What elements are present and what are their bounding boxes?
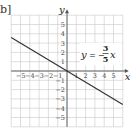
svg-text:5: 5 — [103, 54, 109, 64]
svg-text:1: 1 — [61, 58, 65, 66]
svg-text:5: 5 — [111, 72, 115, 80]
svg-text:=: = — [89, 51, 96, 60]
svg-text:y: y — [58, 4, 65, 15]
svg-text:2: 2 — [84, 72, 88, 80]
svg-text:−1: −1 — [55, 77, 65, 85]
svg-text:3: 3 — [61, 40, 65, 48]
svg-text:−3: −3 — [55, 95, 65, 103]
svg-text:−3: −3 — [34, 72, 44, 80]
svg-text:y: y — [80, 49, 87, 60]
equation-label: y=−35x — [80, 43, 122, 65]
svg-text:−2: −2 — [55, 86, 65, 94]
svg-text:3: 3 — [93, 72, 97, 80]
svg-text:4: 4 — [61, 30, 65, 38]
svg-text:2: 2 — [61, 49, 65, 57]
svg-text:x: x — [110, 49, 116, 60]
svg-text:−2: −2 — [44, 72, 54, 80]
svg-text:−4: −4 — [25, 72, 35, 80]
svg-text:−5: −5 — [55, 114, 65, 122]
svg-text:x: x — [125, 71, 131, 82]
svg-text:5: 5 — [61, 21, 65, 29]
line-chart: xy −5−4−3−2−112345−5−4−3−2−112345 y=−35x — [0, 0, 133, 129]
svg-text:−5: −5 — [16, 72, 26, 80]
tick-labels: −5−4−3−2−112345−5−4−3−2−112345 — [16, 21, 116, 122]
svg-text:3: 3 — [103, 43, 109, 53]
svg-text:4: 4 — [102, 72, 106, 80]
svg-text:−4: −4 — [55, 105, 65, 113]
